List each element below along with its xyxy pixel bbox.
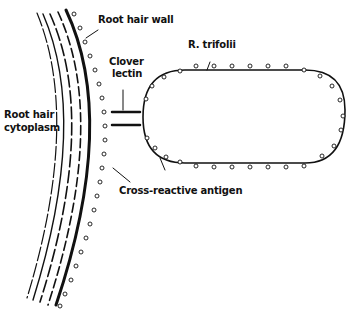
label-r-trifolii: R. trifolii bbox=[188, 39, 236, 51]
label-root-hair-cytoplasm-1: Root hair bbox=[4, 109, 54, 121]
label-root-hair-wall: Root hair wall bbox=[98, 14, 173, 26]
label-cross-reactive-antigen: Cross-reactive antigen bbox=[119, 185, 242, 197]
label-root-hair-cytoplasm-2: cytoplasm bbox=[4, 122, 60, 134]
bacterial-antigens bbox=[144, 64, 345, 169]
r-trifolii-cell bbox=[143, 70, 345, 163]
clover-lectin-bridges bbox=[112, 112, 140, 125]
diagram-canvas: Root hair wall R. trifolii Clover lectin… bbox=[0, 0, 349, 314]
label-clover-lectin-1: Clover bbox=[109, 56, 144, 68]
label-clover-lectin-2: lectin bbox=[112, 68, 142, 80]
diagram-drawing bbox=[0, 0, 349, 314]
